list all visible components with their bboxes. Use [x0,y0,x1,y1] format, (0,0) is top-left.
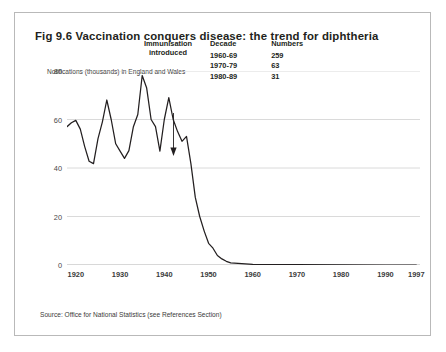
x-tick-label: 1940 [156,270,172,279]
cell-number: 259 [271,51,337,62]
x-tick-label: 1920 [68,270,84,279]
data-series-line [67,76,416,266]
y-tick-label: 60 [54,115,62,124]
cell-number: 63 [271,61,337,72]
y-tick-label: 20 [54,212,62,221]
table-row: 1960-69 259 [210,51,337,62]
y-tick-label: 40 [54,164,62,173]
x-tick-label: 1960 [244,270,260,279]
column-header-decade: Decade [210,39,271,51]
table-row: 1970-79 63 [210,61,337,72]
table-row: 1980-89 31 [210,72,337,83]
x-tick-label: 1997 [408,270,424,279]
decade-numbers-table: Decade Numbers 1960-69 259 1970-79 63 19… [210,39,337,82]
annotation-immunisation-introduced: Immunisation introduced [144,39,192,58]
annotation-line-2: introduced [144,48,192,57]
y-tick-label: 0 [58,261,62,270]
y-tick-label: 80 [54,67,62,76]
cell-decade: 1970-79 [210,61,271,72]
figure-frame: Fig 9.6 Vaccination conquers disease: th… [14,12,431,336]
x-tick-label: 1930 [112,270,128,279]
cell-decade: 1960-69 [210,51,271,62]
cell-decade: 1980-89 [210,72,271,83]
table-header-row: Decade Numbers [210,39,337,51]
x-tick-label: 1980 [333,270,349,279]
x-tick-label: 1950 [200,270,216,279]
x-tick-label: 1990 [377,270,393,279]
chart-plot-area: 80 60 40 20 0 1920 1930 1940 1950 1960 1… [67,71,420,265]
chart-svg [67,71,420,265]
x-tick-label: 1970 [289,270,305,279]
annotation-line-1: Immunisation [144,39,192,48]
column-header-numbers: Numbers [271,39,337,51]
source-note: Source: Office for National Statistics (… [40,311,222,318]
cell-number: 31 [271,72,337,83]
gridlines [67,71,420,265]
